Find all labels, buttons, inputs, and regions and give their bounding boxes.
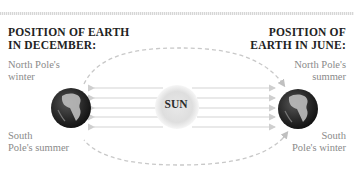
- sun-rays-right: [192, 88, 275, 127]
- december-title-line1: POSITION OF EARTH: [8, 26, 129, 39]
- june-south-label: South Pole's winter: [292, 130, 346, 154]
- label-line: summer: [294, 71, 346, 83]
- december-title-line2: IN DECEMBER:: [8, 39, 129, 52]
- earth-june-icon: [278, 89, 318, 129]
- june-north-label: North Pole's summer: [294, 59, 346, 83]
- label-line: Pole's summer: [8, 142, 69, 154]
- earth-december-icon: [51, 88, 91, 128]
- label-line: South: [292, 130, 346, 142]
- june-title: POSITION OF EARTH IN JUNE:: [250, 26, 346, 52]
- december-north-label: North Pole's winter: [8, 59, 60, 83]
- december-title: POSITION OF EARTH IN DECEMBER:: [8, 26, 129, 52]
- label-line: North Pole's: [8, 59, 60, 71]
- june-title-line2: EARTH IN JUNE:: [250, 39, 346, 52]
- label-line: winter: [8, 71, 60, 83]
- june-title-line1: POSITION OF: [250, 26, 346, 39]
- sun-label: SUN: [151, 98, 201, 110]
- december-south-label: South Pole's summer: [8, 130, 69, 154]
- label-line: North Pole's: [294, 59, 346, 71]
- label-line: Pole's winter: [292, 142, 346, 154]
- label-line: South: [8, 130, 69, 142]
